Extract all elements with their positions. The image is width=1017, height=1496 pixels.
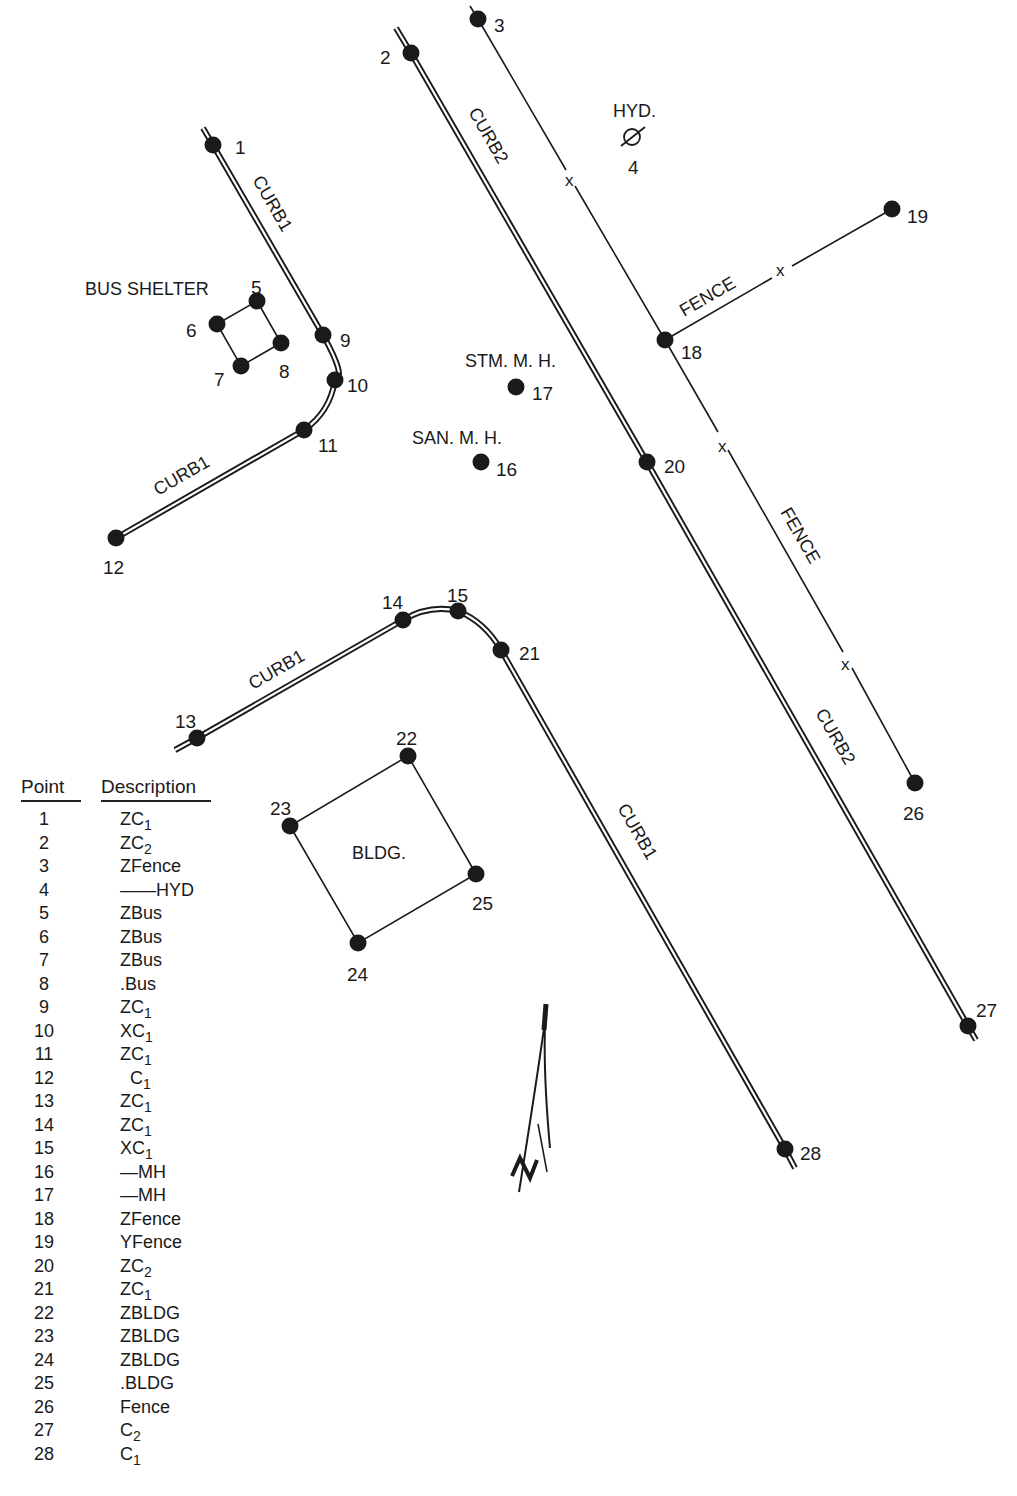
- point-number-label: 11: [318, 435, 338, 456]
- curb1-upper-line: [116, 128, 339, 538]
- survey-point[interactable]: 4: [628, 157, 639, 178]
- legend-point-number: 19: [14, 1231, 84, 1255]
- point-number-label: 26: [903, 803, 924, 824]
- legend-description: C1: [120, 1067, 151, 1091]
- legend-row: 20ZC2: [14, 1255, 224, 1279]
- survey-point[interactable]: 16: [473, 454, 518, 481]
- point-number-label: 16: [496, 459, 517, 480]
- legend-code: ZC: [120, 1115, 144, 1135]
- legend-point-number: 22: [14, 1302, 84, 1326]
- legend-code: ZFence: [120, 1209, 181, 1229]
- legend-row: 16—MH: [14, 1161, 224, 1185]
- survey-point[interactable]: 7: [214, 358, 250, 391]
- survey-point[interactable]: 3: [470, 11, 505, 37]
- point-marker-icon: [296, 422, 313, 439]
- legend-row: 4——HYD: [14, 879, 224, 903]
- legend-code: ZBus: [120, 903, 162, 923]
- legend-code: ZC: [120, 833, 144, 853]
- point-marker-icon: [508, 379, 525, 396]
- point-marker-icon: [777, 1141, 794, 1158]
- legend-point-number: 21: [14, 1278, 84, 1302]
- legend-description: ZFence: [120, 1208, 181, 1232]
- survey-point[interactable]: 22: [396, 728, 417, 765]
- legend-point-number: 6: [14, 926, 84, 950]
- point-number-label: 3: [494, 15, 505, 36]
- point-marker-icon: [233, 358, 250, 375]
- legend-point-number: 14: [14, 1114, 84, 1138]
- legend-description: XC1: [120, 1137, 153, 1161]
- survey-point[interactable]: 17: [508, 379, 554, 405]
- point-marker-icon: [205, 137, 222, 154]
- point-number-label: 15: [447, 585, 468, 606]
- survey-point[interactable]: 11: [296, 422, 338, 457]
- survey-point[interactable]: 24: [347, 935, 369, 986]
- point-number-label: 19: [907, 206, 928, 227]
- survey-point[interactable]: 26: [903, 775, 924, 825]
- legend-code: .BLDG: [120, 1373, 174, 1393]
- legend-point-number: 2: [14, 832, 84, 856]
- survey-point[interactable]: 20: [639, 454, 686, 478]
- legend-row: 24ZBLDG: [14, 1349, 224, 1373]
- point-number-label: 14: [382, 592, 404, 613]
- legend-description: ——HYD: [120, 879, 194, 903]
- legend-code: .Bus: [120, 974, 156, 994]
- point-marker-icon: [468, 866, 485, 883]
- legend-point-number: 1: [14, 808, 84, 832]
- survey-point[interactable]: 5: [249, 277, 266, 310]
- survey-point[interactable]: 25: [468, 866, 494, 915]
- survey-point[interactable]: 15: [447, 585, 468, 620]
- survey-point[interactable]: 1: [205, 137, 246, 159]
- survey-point[interactable]: 14: [382, 592, 412, 629]
- legend-description: ZBus: [120, 902, 162, 926]
- svg-text:x: x: [718, 437, 727, 456]
- legend-code: XC: [120, 1138, 145, 1158]
- survey-point[interactable]: 13: [175, 711, 206, 747]
- survey-point[interactable]: 2: [380, 45, 420, 69]
- sanitary-manhole-label: SAN. M. H.: [412, 428, 502, 448]
- legend-row: 15XC1: [14, 1137, 224, 1161]
- fence-label-main: FENCE: [777, 504, 825, 567]
- svg-text:x: x: [841, 655, 850, 674]
- point-number-label: 1: [235, 137, 246, 158]
- svg-text:x: x: [776, 261, 785, 280]
- survey-point[interactable]: 19: [884, 201, 929, 228]
- legend-header: Point Description: [14, 776, 224, 802]
- survey-point[interactable]: 18: [657, 332, 703, 364]
- legend-code-subscript: 1: [133, 1452, 141, 1468]
- point-number-label: 25: [472, 893, 493, 914]
- legend-description: —MH: [120, 1161, 166, 1185]
- point-number-label: 13: [175, 711, 196, 732]
- legend-code: ZC: [120, 1044, 144, 1064]
- legend-point-number: 3: [14, 855, 84, 879]
- legend-description: ZBus: [120, 949, 162, 973]
- legend-description: ZC1: [120, 808, 152, 832]
- legend-row: 18ZFence: [14, 1208, 224, 1232]
- survey-point[interactable]: 23: [270, 798, 299, 835]
- legend-row: 11ZC1: [14, 1043, 224, 1067]
- legend-description: .Bus: [120, 973, 156, 997]
- point-number-label: 8: [279, 361, 290, 382]
- legend-code: C: [120, 1068, 143, 1088]
- legend-description: ZC1: [120, 1090, 152, 1114]
- point-number-label: 17: [532, 383, 553, 404]
- legend-description: ZC1: [120, 1278, 152, 1302]
- legend-point-number: 7: [14, 949, 84, 973]
- survey-point[interactable]: 28: [777, 1141, 822, 1165]
- legend-point-number: 20: [14, 1255, 84, 1279]
- legend-row: 14ZC1: [14, 1114, 224, 1138]
- survey-point[interactable]: 6: [186, 316, 226, 342]
- survey-point[interactable]: 12: [103, 530, 125, 579]
- survey-point[interactable]: 21: [493, 642, 541, 665]
- legend-code: ZC: [120, 809, 144, 829]
- legend-point-number: 13: [14, 1090, 84, 1114]
- legend-row: 8.Bus: [14, 973, 224, 997]
- point-marker-icon: [282, 818, 299, 835]
- curb1-label-right: CURB1: [614, 800, 662, 863]
- curb1-label-top: CURB1: [249, 172, 297, 235]
- legend-row: 21ZC1: [14, 1278, 224, 1302]
- point-marker-icon: [493, 642, 510, 659]
- legend-point-number: 12: [14, 1067, 84, 1091]
- legend-description: .BLDG: [120, 1372, 174, 1396]
- survey-point[interactable]: 8: [273, 335, 290, 383]
- legend-code: YFence: [120, 1232, 182, 1252]
